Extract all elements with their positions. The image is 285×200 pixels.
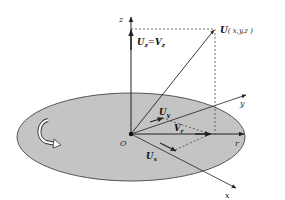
point-u-label: U( x,y,z ) bbox=[220, 25, 253, 35]
x-axis-label: x bbox=[225, 191, 230, 200]
origin-label: O bbox=[120, 139, 127, 148]
diagram-canvas: z y r x O U( x,y,z ) Uz=Vz Uy Vr Ux bbox=[0, 0, 285, 200]
uz-equals-vz-label: Uz=Vz bbox=[137, 37, 166, 48]
z-axis-label: z bbox=[118, 15, 124, 24]
y-axis-label: y bbox=[239, 99, 245, 108]
origin-point bbox=[129, 132, 133, 136]
